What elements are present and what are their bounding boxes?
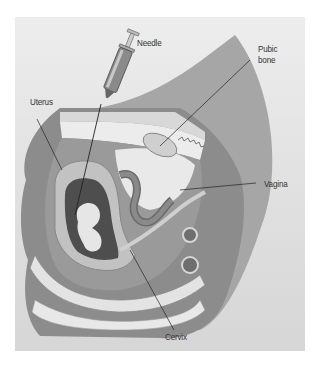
syringe-icon <box>99 28 141 101</box>
cervix-label: Cervix <box>165 331 187 342</box>
vagina-label: Vagina <box>264 178 288 189</box>
pubic-bone-label-line1: Pubic <box>258 43 277 54</box>
anatomy-illustration <box>15 17 305 351</box>
needle-label: Needle <box>137 37 162 48</box>
illustration-frame <box>15 17 305 351</box>
pubic-bone-label-line2: bone <box>258 54 275 65</box>
uterus-label: Uterus <box>30 96 53 107</box>
